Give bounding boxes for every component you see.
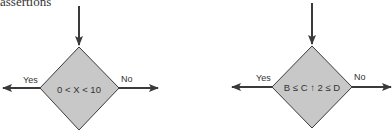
yes-label: Yes	[23, 75, 38, 85]
condition-text: 0 < X < 10	[57, 84, 101, 95]
no-label: No	[354, 72, 366, 82]
no-label: No	[121, 74, 133, 84]
condition-text: B ≤ C ↑ 2 ≤ D	[284, 82, 340, 93]
decision-node-1: Yes No 0 < X < 10	[3, 6, 158, 130]
decision-node-2: Yes No B ≤ C ↑ 2 ≤ D	[232, 3, 391, 128]
yes-label: Yes	[256, 73, 271, 83]
decision-diagrams: Yes No 0 < X < 10 Yes No B ≤ C ↑ 2 ≤ D	[0, 0, 392, 136]
